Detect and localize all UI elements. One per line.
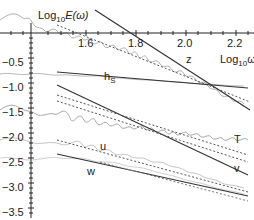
x-tick-1-6: 1.6: [78, 37, 93, 49]
y-tick-labels: −0.5 −1.0 −1.5 −2.0 −2.5 −3.0 −3.5: [2, 56, 24, 218]
label-v: v: [234, 162, 240, 174]
fit-line-u: [57, 140, 248, 192]
chart-svg: 1.6 1.8 2.0 2.2 −0.5 −1.0 −1.5 −2.0 −2.5…: [0, 0, 254, 220]
label-u: u: [100, 140, 106, 152]
fit-line-w: [57, 154, 248, 196]
fit-line-T-dotted-1: [57, 95, 248, 155]
label-z: z: [186, 53, 192, 65]
fit-line-hs: [57, 72, 248, 88]
y-tick-neg3-5: −3.5: [2, 206, 24, 218]
y-axis-title: Log10E(ω): [38, 9, 89, 24]
raw-curve-u: [0, 138, 244, 188]
y-tick-neg2-0: −2.0: [2, 131, 24, 143]
y-tick-neg1-0: −1.0: [2, 81, 24, 93]
label-hs: hS: [104, 70, 115, 85]
raw-spectra: [0, 14, 248, 194]
x-tick-2-2: 2.2: [227, 37, 242, 49]
y-tick-neg2-5: −2.5: [2, 156, 24, 168]
y-tick-neg1-5: −1.5: [2, 106, 24, 118]
spectrum-chart: 1.6 1.8 2.0 2.2 −0.5 −1.0 −1.5 −2.0 −2.5…: [0, 0, 254, 220]
label-T: T: [234, 133, 241, 145]
fit-line-T-dotted-2: [57, 101, 248, 162]
x-tick-1-8: 1.8: [128, 37, 143, 49]
series-labels: z hS T v u w: [86, 53, 241, 177]
x-tick-2-0: 2.0: [177, 37, 192, 49]
raw-curve-w: [0, 157, 244, 194]
label-w: w: [86, 165, 95, 177]
y-tick-neg3-0: −3.0: [2, 181, 24, 193]
y-tick-neg0-5: −0.5: [2, 56, 24, 68]
x-axis-title: Log10ω: [220, 53, 254, 68]
raw-curve-T: [0, 105, 248, 140]
